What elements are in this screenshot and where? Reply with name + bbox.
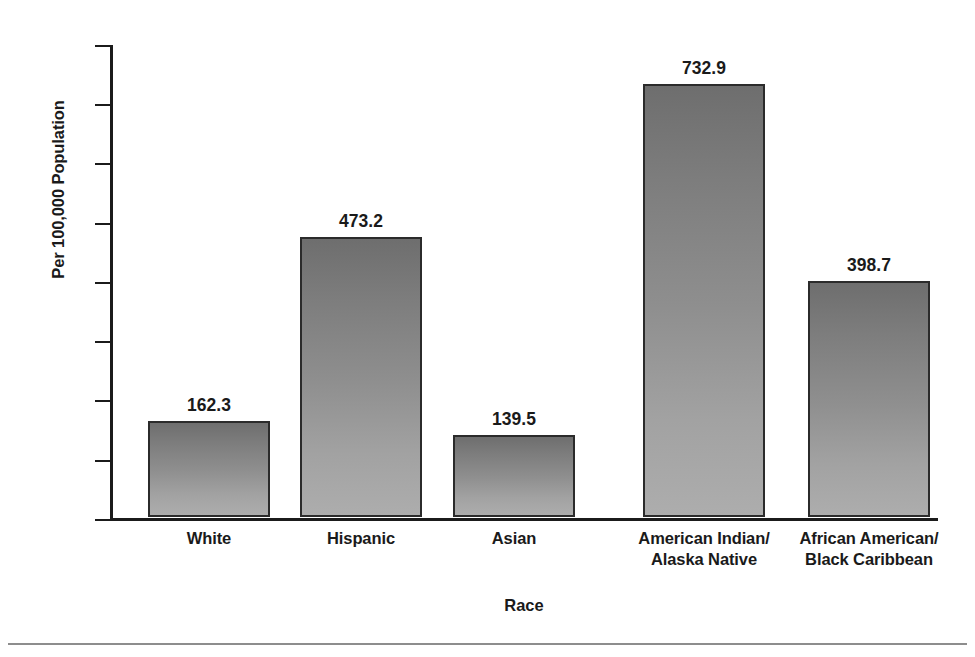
bar-value-asian: 139.5: [423, 411, 605, 429]
bar-chart-figure: Per 100,000 Population 800 700 600 500 4…: [0, 0, 975, 657]
plot-area: 162.3 473.2 139.5 732.9 398.7: [110, 45, 938, 520]
x-category-label-african-american-black-caribbean-line-2: Black Caribbean: [774, 549, 964, 570]
bar-american-indian-alaska-native[interactable]: [643, 84, 765, 517]
x-axis-line: [110, 518, 938, 521]
footer-divider: [8, 643, 967, 645]
y-tick-200: [95, 400, 110, 402]
x-category-label-african-american-black-caribbean-line-1: African American/: [774, 528, 964, 549]
x-category-label-american-indian-alaska-native-line-2: Alaska Native: [609, 549, 799, 570]
x-axis-category-labels: White Hispanic Asian American Indian/ Al…: [110, 528, 938, 590]
x-category-label-asian: Asian: [419, 528, 609, 549]
x-category-label-african-american-black-caribbean: African American/ Black Caribbean: [774, 528, 964, 570]
y-axis-line: [110, 45, 113, 521]
y-tick-800: [95, 45, 110, 47]
x-category-label-american-indian-alaska-native-line-1: American Indian/: [609, 528, 799, 549]
bar-value-hispanic: 473.2: [270, 213, 452, 231]
x-category-label-asian-line-1: Asian: [419, 528, 609, 549]
y-tick-0: [95, 519, 110, 521]
x-axis-title: Race: [110, 596, 938, 615]
bar-hispanic[interactable]: [300, 237, 422, 517]
bar-value-american-indian-alaska-native: 732.9: [613, 60, 795, 78]
x-category-label-american-indian-alaska-native: American Indian/ Alaska Native: [609, 528, 799, 570]
y-tick-300: [95, 341, 110, 343]
bar-white[interactable]: [148, 421, 270, 517]
y-tick-400: [95, 282, 110, 284]
y-tick-700: [95, 104, 110, 106]
bar-value-african-american-black-caribbean: 398.7: [778, 257, 960, 275]
y-axis-title: Per 100,000 Population: [49, 60, 68, 320]
y-tick-500: [95, 223, 110, 225]
bar-value-white: 162.3: [118, 397, 300, 415]
bar-asian[interactable]: [453, 435, 575, 517]
bar-african-american-black-caribbean[interactable]: [808, 281, 930, 517]
y-tick-600: [95, 163, 110, 165]
y-tick-100: [95, 460, 110, 462]
